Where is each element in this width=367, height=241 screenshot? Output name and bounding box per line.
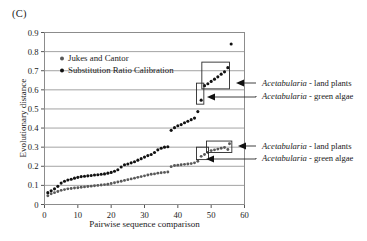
data-point [56,190,59,193]
data-point [153,151,156,154]
data-point [80,186,83,189]
taxon-name: Acetabularia [261,153,307,163]
x-tick-label: 10 [74,210,83,220]
data-point [133,177,136,180]
data-point [150,173,153,176]
data-point [76,176,79,179]
data-point [180,123,183,126]
data-point [160,171,163,174]
lower-green-algae-label: Acetabularia - green algae [261,153,354,163]
data-point [106,183,109,186]
data-point [113,170,116,173]
data-point [130,161,133,164]
data-point [183,163,186,166]
y-tick-label: 0.7 [28,66,39,76]
data-point [170,165,173,168]
legend-label: Jukes and Cantor [68,53,129,63]
data-point [186,120,189,123]
data-point [166,145,169,148]
data-point [193,161,196,164]
data-point [160,147,163,150]
upper-green-algae-label: Acetabularia - green algae [261,91,354,101]
data-point [73,187,76,190]
series-jukes-and-cantor [46,142,231,197]
upper-land-plants-label: Acetabularia - land plants [261,78,352,88]
data-point [140,175,143,178]
taxon-comparison: - land plants [307,78,352,88]
data-point [126,162,129,165]
figure-panel-c: (C) Evolutionary distance Pairwise seque… [0,0,367,241]
taxon-comparison: - green algae [307,91,354,101]
data-point [86,174,89,177]
x-tick-label: 0 [42,210,46,220]
data-point [220,147,223,150]
data-point [103,183,106,186]
annotation-labels-group: Acetabularia - land plantsAcetabularia -… [261,78,354,163]
data-point [113,181,116,184]
data-point [156,172,159,175]
data-point [53,187,56,190]
data-point [93,184,96,187]
data-point [228,142,231,145]
data-point [190,162,193,165]
data-point [100,173,103,176]
data-point [126,178,129,181]
taxon-comparison: - land plants [307,141,352,151]
upper-land-plants-arrowhead [236,80,244,87]
x-tick-label: 20 [107,210,116,220]
data-point [46,191,49,194]
data-point [183,121,186,124]
data-point [196,160,199,163]
data-point [86,185,89,188]
data-point [70,178,73,181]
data-point [133,160,136,163]
panel-label: (C) [12,8,27,19]
data-point [173,164,176,167]
data-point [206,82,209,85]
data-point [156,148,159,151]
x-tick-label: 30 [140,210,149,220]
data-point [170,129,173,132]
data-point [210,149,213,152]
data-point [136,176,139,179]
data-point [46,194,49,197]
data-point [190,118,193,121]
y-axis-ticks-group: 00.10.20.30.40.50.60.70.80.9 [28,28,45,210]
data-point [203,153,206,156]
data-point [223,146,226,149]
data-point [110,182,113,185]
y-tick-label: 0.8 [28,47,39,57]
data-point [120,180,123,183]
y-tick-label: 0.5 [28,104,39,114]
data-point [96,184,99,187]
data-point [56,185,59,188]
data-point [50,192,53,195]
upper-land-plants-box [202,62,230,89]
data-point [210,80,213,83]
y-tick-label: 0 [34,200,38,210]
data-point [80,175,83,178]
data-point [186,163,189,166]
x-tick-label: 40 [174,210,183,220]
upper-green-algae-arrowhead [207,94,215,101]
data-point [110,171,113,174]
y-tick-label: 0.9 [28,28,39,38]
y-tick-label: 0.4 [28,123,39,133]
y-tick-label: 0.3 [28,142,39,152]
data-point [180,163,183,166]
data-point [153,172,156,175]
data-point [90,174,93,177]
data-point [96,173,99,176]
legend-label: Substitution Ratio Calibration [68,65,174,75]
data-point [223,70,226,73]
taxon-name: Acetabularia [261,141,307,151]
data-point [176,124,179,127]
lower-land-plants-label: Acetabularia - land plants [261,141,352,151]
data-point [90,185,93,188]
data-point [200,99,203,102]
data-point [66,178,69,181]
data-point [60,182,63,185]
data-point [163,171,166,174]
data-point [63,188,66,191]
data-point [63,180,66,183]
